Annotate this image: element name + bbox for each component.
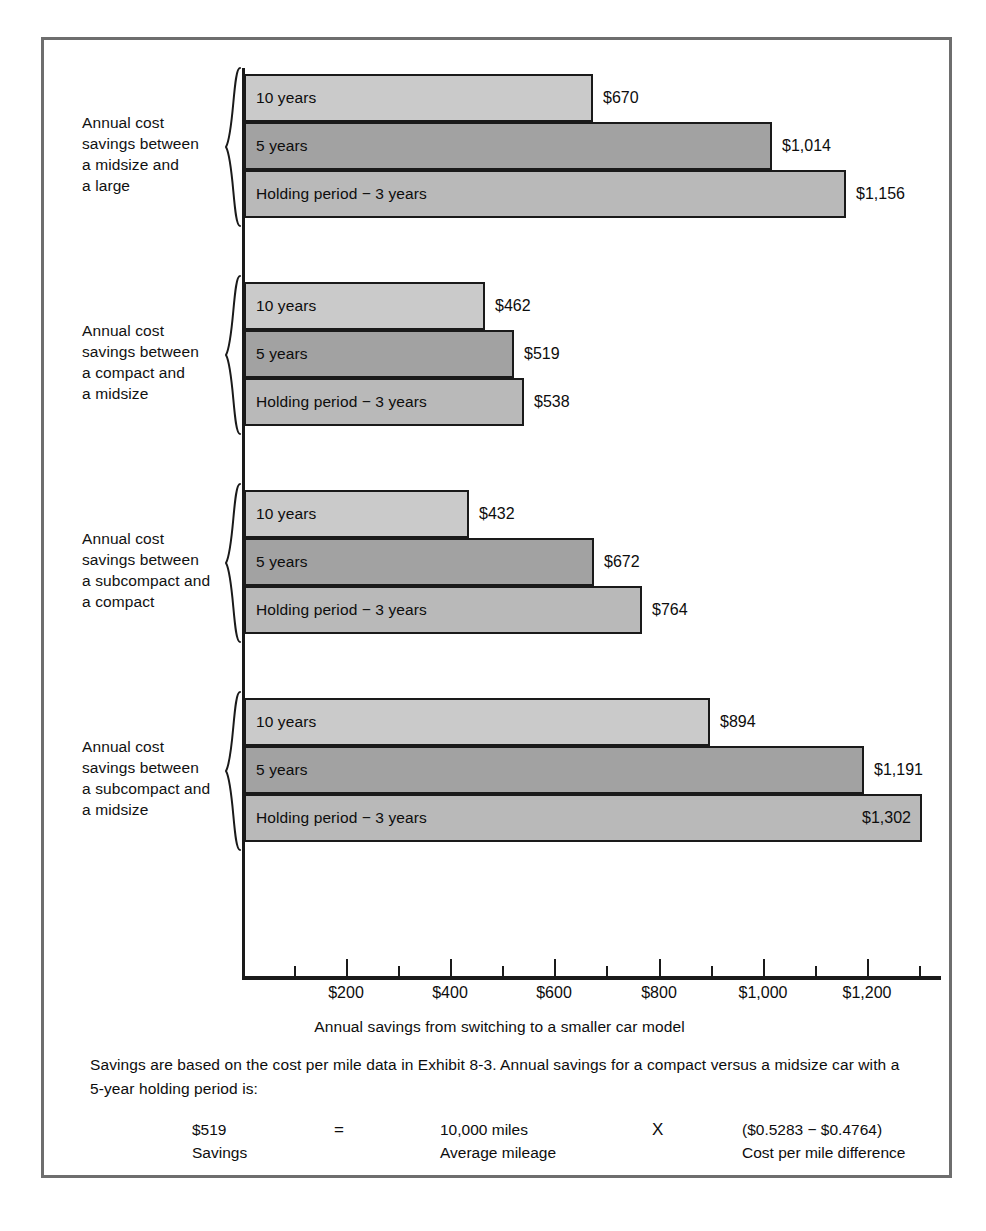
bar-caption: 10 years — [246, 713, 316, 731]
axis-tick-minor — [815, 966, 817, 976]
formula-cost-value: ($0.5283 − $0.4764) — [742, 1118, 905, 1141]
bar-value-label: $764 — [642, 586, 688, 634]
bar-value-label: $1,014 — [772, 122, 831, 170]
bar[interactable]: Holding period − 3 years — [244, 378, 524, 426]
bar-caption: 10 years — [246, 89, 316, 107]
bar[interactable]: Holding period − 3 years — [244, 586, 642, 634]
bar-value-label: $1,156 — [846, 170, 905, 218]
bar-value-label: $1,191 — [864, 746, 923, 794]
axis-tick-major — [867, 959, 869, 976]
axis-tick-major — [659, 959, 661, 976]
bar[interactable]: 5 years — [244, 746, 864, 794]
formula-mileage-label: Average mileage — [440, 1141, 556, 1164]
x-axis-title: Annual savings from switching to a small… — [44, 1018, 955, 1036]
bar-caption: 5 years — [246, 345, 308, 363]
bar-group-label-line: a midsize and — [82, 154, 237, 175]
bar-group-label: Annual costsavings betweena compact anda… — [82, 320, 237, 404]
bar-value-label: $538 — [524, 378, 570, 426]
formula-cost-column: ($0.5283 − $0.4764) Cost per mile differ… — [742, 1118, 905, 1164]
bar-group-label-line: a large — [82, 175, 237, 196]
formula-savings-value: $519 — [192, 1118, 247, 1141]
bar-chart: Annual costsavings betweena midsize anda… — [44, 40, 955, 960]
formula-cost-label: Cost per mile difference — [742, 1141, 905, 1164]
axis-tick-major — [763, 959, 765, 976]
bar-group-label-line: Annual cost — [82, 320, 237, 341]
bar-caption: 5 years — [246, 553, 308, 571]
bar[interactable]: 10 years — [244, 282, 485, 330]
bar-value-label: $670 — [593, 74, 639, 122]
axis-tick-minor — [294, 966, 296, 976]
bar-caption: 10 years — [246, 505, 316, 523]
bar-caption: Holding period − 3 years — [246, 601, 427, 619]
bar-group-label-line: Annual cost — [82, 528, 237, 549]
bar-group-label-line: savings between — [82, 549, 237, 570]
bar[interactable]: 5 years — [244, 330, 514, 378]
bar-group-label-line: savings between — [82, 341, 237, 362]
axis-tick-major — [554, 959, 556, 976]
bar-caption: Holding period − 3 years — [246, 809, 427, 827]
bar-group-label-line: a compact and — [82, 362, 237, 383]
formula-mileage-value: 10,000 miles — [440, 1118, 556, 1141]
bar-group-label: Annual costsavings betweena subcompact a… — [82, 736, 237, 820]
formula-mileage-column: 10,000 miles Average mileage — [440, 1118, 556, 1164]
axis-tick-major — [450, 959, 452, 976]
bar-group-label-line: Annual cost — [82, 736, 237, 757]
axis-tick-label: $200 — [328, 984, 364, 1002]
bar-group-label-line: a compact — [82, 591, 237, 612]
bar-group-label-line: savings between — [82, 757, 237, 778]
bar-group-label: Annual costsavings betweena midsize anda… — [82, 112, 237, 196]
bar-group-label-line: a midsize — [82, 383, 237, 404]
axis-tick-minor — [711, 966, 713, 976]
bar-caption: Holding period − 3 years — [246, 185, 427, 203]
axis-tick-minor — [502, 966, 504, 976]
exhibit-frame: Annual costsavings betweena midsize anda… — [41, 37, 952, 1178]
bar[interactable]: 10 years — [244, 698, 710, 746]
axis-tick-minor — [919, 966, 921, 976]
formula-savings-column: $519 Savings — [192, 1118, 247, 1164]
bar-group-label: Annual costsavings betweena subcompact a… — [82, 528, 237, 612]
bar-group-label-line: a subcompact and — [82, 570, 237, 591]
bar-caption: Holding period − 3 years — [246, 393, 427, 411]
bar-value-label: $432 — [469, 490, 515, 538]
bar-group-label-line: a subcompact and — [82, 778, 237, 799]
axis-tick-label: $400 — [432, 984, 468, 1002]
axis-tick-label: $1,200 — [843, 984, 892, 1002]
formula-equals-sign: = — [334, 1118, 344, 1141]
value-axis-line — [242, 976, 941, 980]
bar-value-label: $462 — [485, 282, 531, 330]
bar[interactable]: 10 years — [244, 74, 593, 122]
bar-value-label: $519 — [514, 330, 560, 378]
axis-tick-label: $600 — [536, 984, 572, 1002]
bar[interactable]: 10 years — [244, 490, 469, 538]
bar-caption: 5 years — [246, 137, 308, 155]
bar[interactable]: Holding period − 3 years — [244, 170, 846, 218]
bar-group-label-line: savings between — [82, 133, 237, 154]
bar-caption: 10 years — [246, 297, 316, 315]
bar-group-label-line: a midsize — [82, 799, 237, 820]
axis-tick-major — [346, 959, 348, 976]
axis-tick-minor — [606, 966, 608, 976]
bar-group-label-line: Annual cost — [82, 112, 237, 133]
bar[interactable]: 5 years — [244, 538, 594, 586]
bar-value-label: $672 — [594, 538, 640, 586]
bar-value-label: $1,302 — [862, 809, 920, 827]
bar-caption: 5 years — [246, 761, 308, 779]
formula-savings-label: Savings — [192, 1141, 247, 1164]
axis-tick-label: $1,000 — [739, 984, 788, 1002]
footnote-text: Savings are based on the cost per mile d… — [90, 1053, 910, 1101]
bar[interactable]: Holding period − 3 years$1,302 — [244, 794, 922, 842]
bar[interactable]: 5 years — [244, 122, 772, 170]
formula-multiply-sign: X — [652, 1118, 663, 1141]
axis-tick-label: $800 — [641, 984, 677, 1002]
axis-tick-minor — [398, 966, 400, 976]
bar-value-label: $894 — [710, 698, 756, 746]
